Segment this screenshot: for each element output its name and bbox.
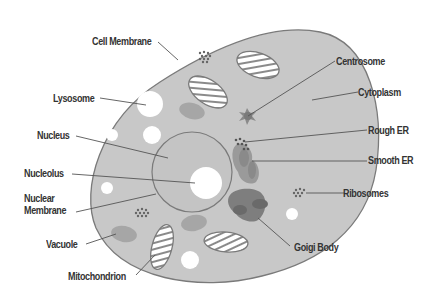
cell-illustration	[0, 0, 441, 301]
label-nucleolus: Nucleolus	[24, 168, 64, 179]
label-cytoplasm: Cytoplasm	[358, 87, 401, 98]
label-nucleus: Nucleus	[37, 130, 69, 141]
label-nuclear-membrane-line1: Nuclear	[24, 193, 55, 204]
white-spot	[143, 126, 161, 144]
nucleus-shape	[152, 132, 232, 212]
label-lysosome: Lysosome	[53, 93, 94, 104]
white-spot	[286, 208, 298, 220]
cell-diagram: Cell Membrane Lysosome Nucleus Nucleolus…	[0, 0, 441, 301]
label-rough-er: Rough ER	[368, 125, 409, 136]
label-nuclear-membrane-line2: Membrane	[24, 205, 66, 216]
label-smooth-er: Smooth ER	[368, 155, 413, 166]
white-spot	[106, 129, 118, 141]
label-centrosome: Centrosome	[336, 56, 385, 67]
label-cell-membrane: Cell Membrane	[92, 36, 151, 47]
label-ribosomes: Ribosomes	[343, 188, 388, 199]
white-spot	[101, 182, 113, 194]
label-vacuole: Vacuole	[46, 239, 78, 250]
label-mitochondrion: Mitochondrion	[68, 271, 126, 282]
white-spot	[181, 251, 199, 269]
label-golgi-body: Goigi Body	[294, 242, 338, 253]
